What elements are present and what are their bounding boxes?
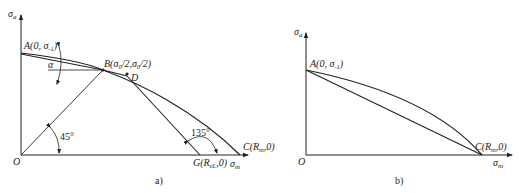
y-axis-label-a: σa [8, 8, 17, 21]
point-A-label-a: A(0, σ-1) [23, 40, 58, 52]
diagram-a: σa σm O α 45° 135° A(0, σ-1) B(σ0/2,σ0/2… [8, 8, 275, 187]
point-C-label-b: C(Rm,0) [475, 141, 507, 153]
point-C-label-a: C(Rm,0) [243, 141, 275, 153]
angle-45-arc [50, 127, 59, 153]
line-AC-b [306, 70, 482, 155]
caption-b: b) [395, 175, 403, 187]
caption-a: a) [155, 175, 163, 187]
line-OB [21, 70, 103, 155]
point-D-label: D [130, 72, 139, 83]
alpha-arc [57, 46, 61, 84]
point-G-label: G(ReL,0) [193, 157, 228, 169]
y-axis-label-b: σa [294, 26, 303, 39]
x-axis-label-b: σm [493, 157, 503, 170]
fatigue-diagrams: σa σm O α 45° 135° A(0, σ-1) B(σ0/2,σ0/2… [0, 0, 519, 193]
angle-135-arc [188, 137, 217, 153]
point-D-dot [125, 72, 128, 75]
angle-alpha-label: α [48, 59, 54, 70]
origin-label-a: O [13, 156, 20, 167]
diagram-b: σa σm O A(0, σ-1) C(Rm,0) b) [294, 26, 512, 187]
angle-135-label: 135° [191, 127, 210, 138]
origin-label-b: O [298, 156, 305, 167]
x-axis-label-a: σm [230, 158, 240, 171]
point-B-label: B(σ0/2,σ0/2) [104, 58, 152, 70]
angle-45-label: 45° [60, 131, 74, 142]
line-DG [127, 76, 200, 155]
point-A-label-b: A(0, σ-1) [309, 58, 344, 70]
